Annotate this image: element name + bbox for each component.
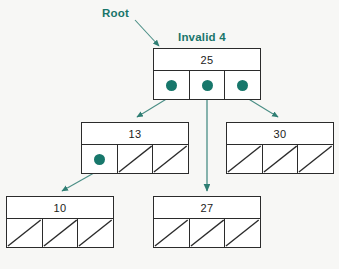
null-slash-icon [227, 145, 262, 173]
null-slash-icon [43, 219, 78, 247]
null-slash-icon [225, 219, 260, 247]
tree-node-pointer-row [154, 71, 260, 99]
tree-node-pointer-row [154, 219, 260, 247]
pointer-cell-null[interactable] [154, 219, 190, 247]
tree-node-pointer-row [82, 145, 188, 173]
pointer-cell-null[interactable] [153, 145, 188, 173]
root-label: Root [102, 7, 129, 19]
tree-node-key: 10 [7, 197, 113, 219]
edge-root-label-to-root [135, 20, 159, 46]
tree-node-n10[interactable]: 10 [6, 196, 114, 248]
pointer-dot-icon [94, 154, 105, 165]
pointer-cell-filled[interactable] [154, 71, 190, 99]
pointer-cell-null[interactable] [118, 145, 154, 173]
null-slash-icon [153, 145, 188, 173]
tree-node-key: 13 [82, 123, 188, 145]
null-slash-icon [7, 219, 42, 247]
pointer-cell-null[interactable] [263, 145, 299, 173]
null-slash-icon [263, 145, 298, 173]
pointer-cell-null[interactable] [78, 219, 113, 247]
null-slash-icon [78, 219, 113, 247]
pointer-cell-null[interactable] [225, 219, 260, 247]
tree-node-n13[interactable]: 13 [81, 122, 189, 174]
invalid-count-label: Invalid 4 [178, 31, 226, 43]
tree-node-key: 27 [154, 197, 260, 219]
pointer-cell-null[interactable] [190, 219, 226, 247]
pointer-cell-null[interactable] [227, 145, 263, 173]
tree-node-n27[interactable]: 27 [153, 196, 261, 248]
pointer-dot-icon [202, 80, 213, 91]
null-slash-icon [118, 145, 153, 173]
null-slash-icon [154, 219, 189, 247]
tree-node-n30[interactable]: 30 [226, 122, 334, 174]
pointer-cell-filled[interactable] [225, 71, 260, 99]
tree-diagram-canvas: Root Invalid 4 2513301027 [0, 0, 339, 269]
pointer-dot-icon [166, 80, 177, 91]
tree-node-pointer-row [7, 219, 113, 247]
tree-node-key: 30 [227, 123, 333, 145]
null-slash-icon [190, 219, 225, 247]
pointer-cell-null[interactable] [298, 145, 333, 173]
tree-node-root[interactable]: 25 [153, 48, 261, 100]
pointer-cell-filled[interactable] [82, 145, 118, 173]
tree-node-pointer-row [227, 145, 333, 173]
tree-node-key: 25 [154, 49, 260, 71]
pointer-dot-icon [237, 80, 248, 91]
null-slash-icon [298, 145, 333, 173]
pointer-cell-filled[interactable] [190, 71, 226, 99]
pointer-cell-null[interactable] [43, 219, 79, 247]
pointer-cell-null[interactable] [7, 219, 43, 247]
